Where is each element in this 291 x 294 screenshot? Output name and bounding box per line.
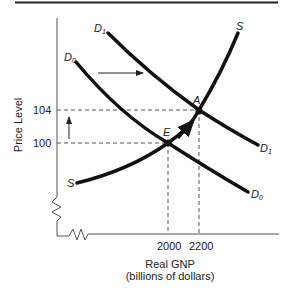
x-axis-title: Real GNP [145,258,195,270]
point-e-marker [165,140,172,147]
y-axis-title: Price Level [12,98,24,152]
demand-curve-d1 [108,33,258,145]
point-a-label: A [192,94,200,106]
ytick-104: 104 [33,104,51,116]
s-bottom-label: S [67,177,75,189]
supply-curve-s [77,33,238,183]
movement-e-to-a-arrow [178,121,193,138]
point-e-label: E [163,126,171,138]
d1-end-label: D1 [260,142,272,155]
x-axis-subtitle: (billions of dollars) [126,270,215,282]
ytick-100: 100 [33,137,51,149]
aggregate-supply-demand-chart: D1 D0 S S D1 D0 A E 104 100 2000 2200 Pr… [0,0,291,294]
xtick-2000: 2000 [157,240,181,252]
s-top-label: S [236,20,244,32]
d1-start-label: D1 [94,22,106,35]
xtick-2200: 2200 [189,240,213,252]
d0-start-label: D0 [64,51,76,64]
d0-end-label: D0 [251,188,263,201]
y-axis [52,18,61,236]
point-a-marker [196,108,203,115]
